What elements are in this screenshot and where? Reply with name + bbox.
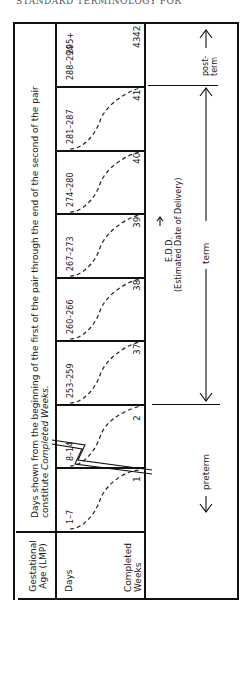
week-cell: 37 [132,344,142,355]
days-cell: 260–266 [66,299,75,334]
corner-label-text: Gestational Age (LMP) [28,540,48,592]
row-label-weeks: Completed Weeks [123,552,143,592]
curve-week-1 [70,470,140,529]
week-cell: 40 [132,153,142,164]
curve-week-40 [70,152,140,212]
table-caption: Days shown from the beginning of the fir… [30,118,50,518]
curve-week-41 [70,88,140,149]
caption-text: constitute [40,470,50,518]
term-label: term [201,243,211,264]
week-cell: 41 [132,90,142,101]
postterm-line-2: term [210,56,219,76]
days-cell: 295+ [66,32,75,54]
caption-italic: Completed Weeks. [40,385,50,470]
days-cell: 267–273 [66,236,75,271]
edd-full-label: (Estimated Date of Delivery) [174,178,183,292]
week-cell: 42 [132,26,142,37]
postterm-line-1: post- [201,56,210,76]
week-cell: 1 [132,476,142,482]
preterm-label: preterm [201,454,211,490]
days-cell: 274–280 [66,172,75,207]
corner-label: Gestational Age (LMP) [28,540,48,592]
postterm-label: post- term [201,56,219,76]
row-label-days: Days [64,570,74,592]
week-cell: 43 [132,37,142,48]
curve-week-38 [70,279,140,339]
edd-label: E.D.D. [165,237,174,262]
week-cell: 38 [132,280,142,291]
days-cell: 8–14 [66,442,75,461]
days-cell: 281–287 [66,109,75,144]
caption-line-1: Days shown from the beginning of the fir… [30,118,40,518]
week-cell: 2 [132,415,142,421]
days-cell: 1–7 [66,510,75,524]
week-cell: 39 [132,217,142,228]
curve-week-39 [70,215,140,276]
curve-week-37 [70,342,140,403]
days-cell: 253–259 [66,363,75,398]
caption-line-2: constitute Completed Weeks. [40,118,50,518]
